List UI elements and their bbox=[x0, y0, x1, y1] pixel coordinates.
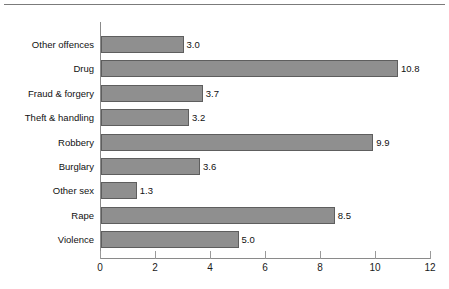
bar-chart: 024681012 Other offences3.0Drug10.8Fraud… bbox=[0, 0, 449, 289]
category-label-robbery: Robbery bbox=[58, 136, 94, 149]
bar-other-offences[interactable] bbox=[101, 36, 184, 53]
bar-row: Rape8.5 bbox=[0, 207, 449, 224]
x-tick-label-4: 4 bbox=[207, 262, 213, 274]
x-tick-0 bbox=[100, 251, 101, 259]
x-tick-10 bbox=[375, 251, 376, 259]
category-label-theft-handling: Theft & handling bbox=[25, 111, 94, 124]
bar-value-label: 5.0 bbox=[242, 233, 255, 246]
x-tick-label-2: 2 bbox=[152, 262, 158, 274]
x-tick-label-0: 0 bbox=[97, 262, 103, 274]
x-tick-label-10: 10 bbox=[369, 262, 380, 274]
bar-value-label: 3.0 bbox=[187, 38, 200, 51]
bar-row: Other offences3.0 bbox=[0, 36, 449, 53]
bar-row: Violence5.0 bbox=[0, 231, 449, 248]
category-label-drug: Drug bbox=[73, 62, 94, 75]
category-label-rape: Rape bbox=[71, 209, 94, 222]
bar-row: Robbery9.9 bbox=[0, 134, 449, 151]
bar-value-label: 3.6 bbox=[203, 160, 216, 173]
x-tick-label-8: 8 bbox=[317, 262, 323, 274]
bar-value-label: 3.2 bbox=[192, 111, 205, 124]
bar-burglary[interactable] bbox=[101, 158, 200, 175]
bar-value-label: 9.9 bbox=[376, 136, 389, 149]
bar-value-label: 8.5 bbox=[338, 209, 351, 222]
x-tick-4 bbox=[210, 251, 211, 259]
x-tick-6 bbox=[265, 251, 266, 259]
bar-row: Fraud & forgery3.7 bbox=[0, 85, 449, 102]
x-tick-2 bbox=[155, 251, 156, 259]
category-label-fraud-forgery: Fraud & forgery bbox=[28, 87, 94, 100]
category-label-other-sex: Other sex bbox=[53, 184, 94, 197]
x-tick-label-12: 12 bbox=[424, 262, 435, 274]
x-tick-8 bbox=[320, 251, 321, 259]
x-tick-12 bbox=[430, 251, 431, 259]
category-label-violence: Violence bbox=[58, 233, 94, 246]
bar-value-label: 3.7 bbox=[206, 87, 219, 100]
bar-violence[interactable] bbox=[101, 231, 239, 248]
bar-robbery[interactable] bbox=[101, 134, 373, 151]
bar-theft-handling[interactable] bbox=[101, 109, 189, 126]
bar-row: Other sex1.3 bbox=[0, 182, 449, 199]
bar-row: Burglary3.6 bbox=[0, 158, 449, 175]
category-label-burglary: Burglary bbox=[59, 160, 94, 173]
bar-fraud-forgery[interactable] bbox=[101, 85, 203, 102]
bar-value-label: 1.3 bbox=[140, 184, 153, 197]
bar-row: Theft & handling3.2 bbox=[0, 109, 449, 126]
x-tick-label-6: 6 bbox=[262, 262, 268, 274]
category-label-other-offences: Other offences bbox=[32, 38, 94, 51]
bar-value-label: 10.8 bbox=[401, 62, 420, 75]
bar-drug[interactable] bbox=[101, 60, 398, 77]
bar-row: Drug10.8 bbox=[0, 60, 449, 77]
bar-rape[interactable] bbox=[101, 207, 335, 224]
bar-other-sex[interactable] bbox=[101, 182, 137, 199]
plot-area: 024681012 Other offences3.0Drug10.8Fraud… bbox=[0, 0, 449, 289]
